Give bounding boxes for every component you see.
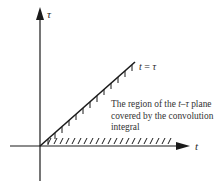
line-label-eq: =	[142, 61, 153, 72]
caption-line-2: covered by the convolution	[111, 111, 213, 123]
line-label-rhs: τ	[152, 61, 156, 72]
tau-axis-label: τ	[47, 9, 51, 20]
tau-axis-arrowhead-icon	[36, 7, 44, 20]
caption-line-1-pre: The region of the	[111, 99, 178, 109]
tau-axis	[36, 7, 44, 181]
diagram-canvas	[0, 0, 221, 182]
t-axis-arrowhead-icon	[176, 142, 190, 150]
caption-line-1-var: t–τ	[178, 99, 189, 109]
region-caption: The region of the t–τ plane covered by t…	[111, 99, 213, 134]
caption-line-1-post: plane	[189, 99, 212, 109]
caption-line-1: The region of the t–τ plane	[111, 99, 213, 111]
t-axis-hatching	[48, 138, 171, 144]
t-equals-tau-label: t = τ	[139, 62, 156, 72]
t-axis-label: t	[195, 141, 198, 152]
caption-line-3: integral	[111, 122, 213, 134]
t-axis	[10, 142, 190, 150]
